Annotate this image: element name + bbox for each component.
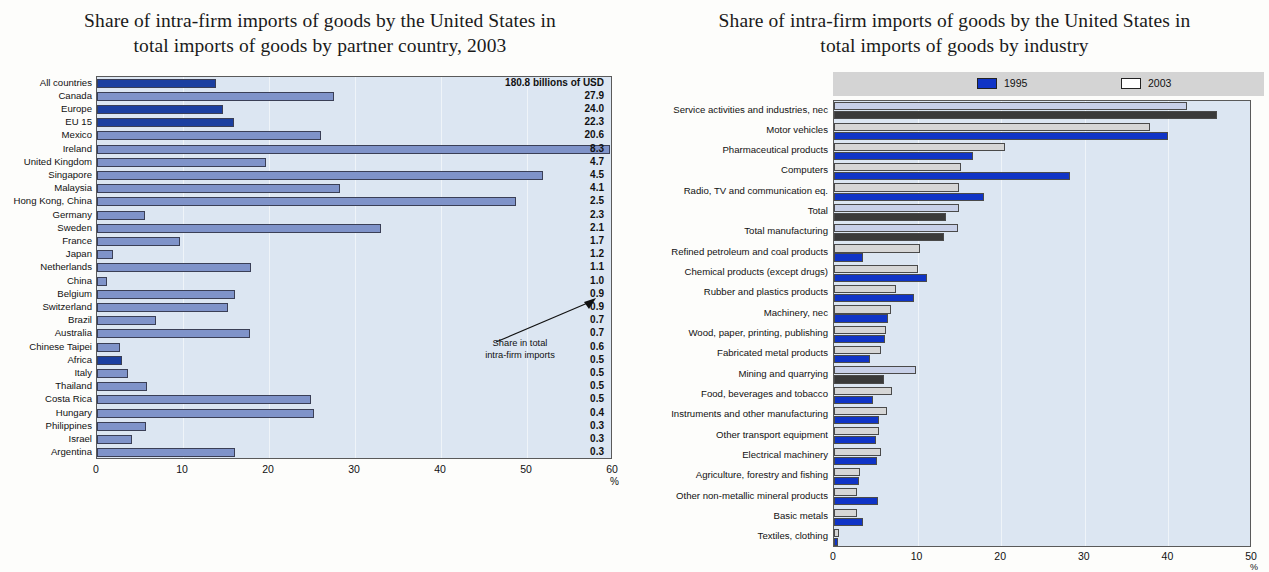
left-category-label: Singapore	[0, 168, 92, 181]
right-bar-group	[834, 446, 1250, 466]
right-bar-1995	[834, 355, 870, 363]
left-bar	[97, 158, 266, 167]
right-chart-panel: Share of intra-firm imports of goods by …	[640, 0, 1269, 572]
right-category-label: Electrical machinery	[628, 445, 828, 465]
right-bar-1995	[834, 253, 863, 261]
right-bar-2003	[834, 123, 1150, 131]
right-category-label: Refined petroleum and coal products	[628, 242, 828, 262]
left-bar	[97, 395, 311, 404]
left-axis-tick: 10	[176, 463, 188, 475]
left-value-label: 1.0	[590, 274, 604, 287]
right-category-label: Other non-metallic mineral products	[628, 486, 828, 506]
right-bar-1995	[834, 396, 873, 404]
left-value-label: 0.3	[590, 432, 604, 445]
left-bar	[97, 329, 250, 338]
left-bar	[97, 435, 132, 444]
right-bar-2003	[834, 102, 1187, 110]
right-bar-1995	[834, 477, 859, 485]
left-bar	[97, 79, 216, 88]
right-category-label: Pharmaceutical products	[628, 140, 828, 160]
legend-swatch-2003-icon	[1121, 78, 1141, 89]
right-bar-1995	[834, 538, 838, 546]
right-bar-group	[834, 507, 1250, 527]
right-category-label: Machinery, nec	[628, 303, 828, 323]
right-bar-group	[834, 528, 1250, 548]
left-value-label: 0.4	[590, 406, 604, 419]
left-bar	[97, 277, 107, 286]
right-bar-1995	[834, 518, 863, 526]
right-bar-group	[834, 406, 1250, 426]
left-value-label: 0.7	[590, 326, 604, 339]
left-bar	[97, 290, 235, 299]
left-axis-tick: 60	[606, 463, 618, 475]
right-bar-1995	[834, 172, 1070, 180]
left-category-label: Switzerland	[0, 300, 92, 313]
right-axis-tick: 20	[994, 550, 1006, 562]
left-bar	[97, 263, 251, 272]
right-axis-unit: %	[1250, 562, 1258, 572]
annotation-text-1: Share in total	[460, 338, 580, 350]
left-category-label: Japan	[0, 247, 92, 260]
left-bar	[97, 131, 321, 140]
right-category-label: Other transport equipment	[628, 425, 828, 445]
left-value-label: 2.3	[590, 208, 604, 221]
right-bar-2003	[834, 468, 860, 476]
left-category-label: Hong Kong, China	[0, 194, 92, 207]
right-gridline	[1252, 101, 1253, 546]
left-bar	[97, 237, 180, 246]
right-axis-tick: 40	[1162, 550, 1174, 562]
right-axis-tick: 30	[1078, 550, 1090, 562]
right-bar-1995	[834, 274, 927, 282]
left-axis-tick: 20	[262, 463, 274, 475]
left-category-labels: All countriesCanadaEuropeEU 15MexicoIrel…	[0, 76, 92, 459]
right-bar-group	[834, 264, 1250, 284]
right-bar-1995	[834, 193, 984, 201]
right-bar-group	[834, 101, 1250, 121]
right-bar-group	[834, 487, 1250, 507]
left-bar	[97, 118, 234, 127]
right-bar-group	[834, 304, 1250, 324]
right-bar-group	[834, 345, 1250, 365]
right-category-label: Radio, TV and communication eq.	[628, 181, 828, 201]
legend-label-1995: 1995	[1004, 77, 1027, 89]
left-value-label: 20.6	[585, 128, 604, 141]
right-bar-1995	[834, 294, 914, 302]
right-bar-2003	[834, 183, 959, 191]
right-axis-tick: 0	[830, 550, 836, 562]
right-chart-title-line1: Share of intra-firm imports of goods by …	[719, 10, 1191, 31]
left-bar	[97, 224, 381, 233]
right-bar-1995	[834, 335, 885, 343]
right-category-label: Total manufacturing	[628, 221, 828, 241]
annotation-text-2: intra-firm imports	[460, 350, 580, 362]
right-bar-2003	[834, 407, 887, 415]
right-bar-1995	[834, 213, 946, 221]
right-bar-2003	[834, 204, 959, 212]
left-value-label: 4.7	[590, 155, 604, 168]
left-value-label: 4.1	[590, 181, 604, 194]
left-value-label: 8.3	[590, 142, 604, 155]
right-bar-1995	[834, 457, 877, 465]
left-bar	[97, 369, 128, 378]
left-value-label: 2.5	[590, 194, 604, 207]
right-category-label: Basic metals	[628, 506, 828, 526]
left-category-label: EU 15	[0, 115, 92, 128]
legend-item-1995: 1995	[977, 77, 1027, 89]
left-category-label: Sweden	[0, 221, 92, 234]
right-bar-2003	[834, 326, 886, 334]
right-category-label: Wood, paper, printing, publishing	[628, 323, 828, 343]
right-bar-group	[834, 426, 1250, 446]
left-chart-title: Share of intra-firm imports of goods by …	[0, 8, 640, 58]
left-value-label: 24.0	[585, 102, 604, 115]
left-bar	[97, 422, 146, 431]
legend-label-2003: 2003	[1148, 77, 1171, 89]
left-category-label: Ireland	[0, 142, 92, 155]
left-bar	[97, 105, 223, 114]
left-category-label: Chinese Taipei	[0, 340, 92, 353]
right-category-label: Computers	[628, 160, 828, 180]
right-chart-title: Share of intra-firm imports of goods by …	[640, 8, 1269, 58]
left-value-label: 0.6	[590, 340, 604, 353]
left-bar	[97, 211, 145, 220]
left-gridline	[613, 77, 614, 458]
right-bar-group	[834, 365, 1250, 385]
right-category-label: Food, beverages and tobacco	[628, 384, 828, 404]
